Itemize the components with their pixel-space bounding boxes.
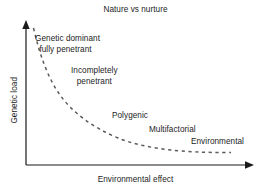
y-axis-label: Genetic load (10, 55, 21, 145)
y-axis-arrowhead (22, 20, 29, 29)
annotation-genetic-dominant: Genetic dominant fully penetrant (35, 34, 100, 55)
figure-root: Nature vs nurture Genetic load Environme… (0, 0, 271, 192)
annotation-incompletely-penetrant-line1: Incompletely (71, 66, 118, 75)
annotation-incompletely-penetrant-line2: penetrant (71, 77, 118, 88)
annotation-genetic-dominant-line2: fully penetrant (35, 45, 100, 56)
annotation-environmental: Environmental (191, 137, 244, 148)
annotation-genetic-dominant-line1: Genetic dominant (35, 34, 100, 43)
x-axis-arrowhead (245, 161, 254, 168)
annotation-incompletely-penetrant: Incompletely penetrant (71, 66, 118, 87)
chart-canvas (0, 0, 271, 192)
annotation-polygenic: Polygenic (112, 111, 148, 122)
x-axis-label: Environmental effect (0, 175, 271, 186)
chart-title: Nature vs nurture (0, 5, 271, 16)
annotation-multifactorial: Multifactorial (149, 125, 196, 136)
